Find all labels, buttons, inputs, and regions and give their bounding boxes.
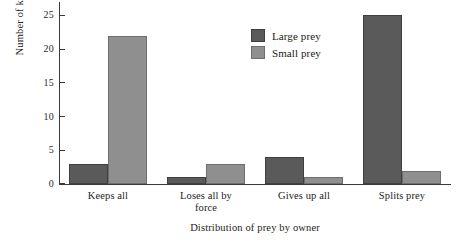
y-axis-tick-label: 10 [36, 111, 54, 123]
legend-item: Large prey [251, 27, 321, 44]
y-axis-tick-label-text: 25 [36, 9, 54, 20]
bar-small-prey [304, 177, 343, 184]
y-axis-tick-label-text: 0 [36, 178, 54, 189]
y-axis-tick [59, 150, 65, 151]
bar-small-prey [402, 171, 441, 184]
x-axis-category-label: Gives up all [255, 190, 353, 202]
legend-swatch-icon [251, 29, 265, 42]
y-axis-tick-label-text: 20 [36, 43, 54, 54]
x-axis-category-label-line: force [157, 202, 255, 214]
x-axis-category-label: Splits prey [353, 190, 451, 202]
legend: Large preySmall prey [251, 27, 321, 61]
y-axis-title: Number of kills [14, 0, 28, 76]
x-axis-category-label: Keeps all [59, 190, 157, 202]
bar-large-prey [69, 164, 108, 184]
x-axis-category-label-line: Gives up all [255, 190, 353, 202]
x-axis-category-label-line: Splits prey [353, 190, 451, 202]
y-axis-tick-label: 20 [36, 43, 54, 55]
legend-label: Large prey [272, 30, 321, 42]
legend-swatch-icon [251, 46, 265, 59]
y-axis-tick [59, 49, 65, 50]
y-axis-tick-label: 15 [36, 77, 54, 89]
bar-chart-figure: Number of kills 0510152025 Keeps allLose… [0, 0, 467, 242]
x-axis-category-label: Loses all byforce [157, 190, 255, 214]
y-axis-tick [59, 82, 65, 83]
y-axis-tick [59, 15, 65, 16]
y-axis-tick-label-text: 10 [36, 111, 54, 122]
y-axis-tick-label: 5 [36, 144, 54, 156]
y-axis-tick-label-text: 5 [36, 144, 54, 155]
bar-small-prey [108, 36, 147, 184]
legend-label: Small prey [272, 47, 321, 59]
bar-large-prey [265, 157, 304, 184]
y-axis-line [59, 2, 60, 185]
legend-item: Small prey [251, 44, 321, 61]
x-axis-category-label-line: Loses all by [157, 190, 255, 202]
y-axis-tick [59, 116, 65, 117]
bar-large-prey [363, 15, 402, 184]
x-axis-line [59, 184, 451, 185]
x-axis-category-label-line: Keeps all [59, 190, 157, 202]
bar-small-prey [206, 164, 245, 184]
y-axis-tick-label: 25 [36, 9, 54, 21]
bar-large-prey [167, 177, 206, 184]
y-axis-tick-label: 0 [36, 178, 54, 190]
y-axis-tick-label-text: 15 [36, 77, 54, 88]
x-axis-title: Distribution of prey by owner [59, 222, 451, 233]
